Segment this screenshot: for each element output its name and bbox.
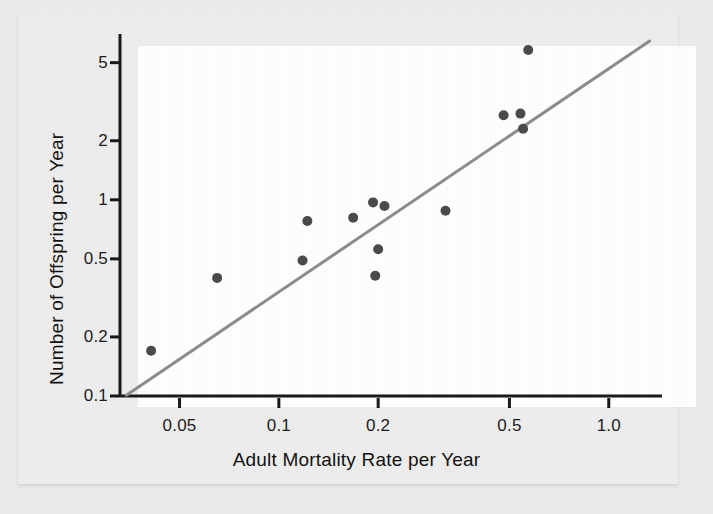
scatter-point [373,244,383,254]
x-axis-title: Adult Mortality Rate per Year [0,449,713,471]
x-axis-tick-label: 0.5 [497,416,521,436]
scatter-point [518,124,528,134]
scatter-point [515,109,525,119]
x-axis-tick-label: 0.1 [267,416,291,436]
scatter-point [370,271,380,281]
scatter-point [441,206,451,216]
scatter-point [302,216,312,226]
y-axis-title: Number of Offspring per Year [46,133,68,385]
x-axis-tick-label: 0.2 [366,416,390,436]
trend-line-segment [126,41,649,395]
x-axis-tick-label: 1.0 [597,416,621,436]
y-axis-tick-label: 0.1 [50,386,108,406]
scatter-point [368,197,378,207]
scatter-point [146,346,156,356]
y-axis-tick-label: 5 [50,53,108,73]
figure-root: 0.10.20.5125 0.050.10.20.51.0 Adult Mort… [0,0,713,514]
x-axis-tick-marks [180,398,609,408]
scatter-point [379,201,389,211]
scatter-point [298,256,308,266]
scatter-point [348,213,358,223]
x-axis-tick-label: 0.05 [163,416,197,436]
scatter-point-group [146,45,533,356]
scatter-point [523,45,533,55]
scatter-point [212,273,222,283]
scatter-point [499,110,509,120]
trend-line [126,41,649,395]
